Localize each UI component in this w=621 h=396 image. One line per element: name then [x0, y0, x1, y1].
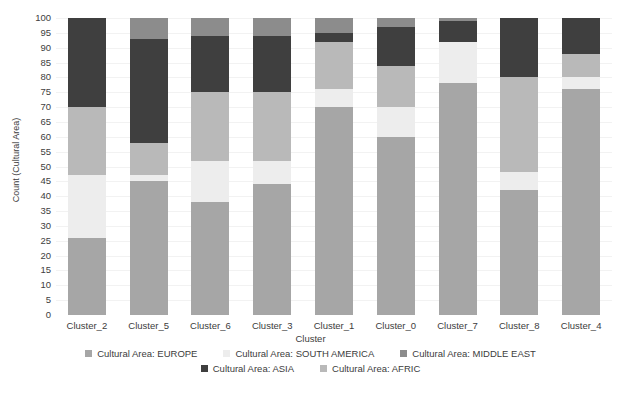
bar-segment[interactable] — [377, 27, 415, 66]
plot-area — [56, 18, 612, 315]
stacked-bar[interactable] — [439, 18, 477, 315]
y-axis-tick-label: 100 — [11, 13, 51, 23]
stacked-bar[interactable] — [500, 18, 538, 315]
y-axis-title-text: Count (Cultural Area) — [11, 118, 21, 203]
bar-segment[interactable] — [315, 89, 353, 107]
y-axis-tick-label: 5 — [11, 295, 51, 305]
stacked-bar-chart-figure: Count (Cultural Area) 051015202530354045… — [0, 0, 621, 396]
x-axis-tick-label: Cluster_4 — [526, 320, 621, 331]
y-axis-tick-label: 20 — [11, 251, 51, 261]
y-axis-tick-label: 50 — [11, 162, 51, 172]
bar-segment[interactable] — [130, 181, 168, 315]
bar-segment[interactable] — [68, 18, 106, 107]
bar-segment[interactable] — [562, 77, 600, 89]
legend-row: Cultural Area: EUROPECultural Area: SOUT… — [85, 348, 536, 359]
y-axis-tick-label: 15 — [11, 265, 51, 275]
bar-segment[interactable] — [439, 42, 477, 84]
bar-group-cluster_4[interactable] — [550, 18, 612, 315]
bar-segment[interactable] — [253, 184, 291, 315]
bar-segment[interactable] — [500, 190, 538, 315]
x-axis-title-text: Cluster — [295, 333, 325, 344]
legend-swatch-icon — [201, 365, 208, 372]
bar-segment[interactable] — [500, 172, 538, 190]
bar-group-cluster_8[interactable] — [488, 18, 550, 315]
legend-swatch-icon — [223, 350, 230, 357]
bar-segment[interactable] — [315, 107, 353, 315]
bar-group-cluster_7[interactable] — [427, 18, 489, 315]
bar-group-cluster_5[interactable] — [118, 18, 180, 315]
bar-segment[interactable] — [315, 18, 353, 33]
stacked-bar[interactable] — [191, 18, 229, 315]
bar-segment[interactable] — [562, 54, 600, 78]
legend-item[interactable]: Cultural Area: SOUTH AMERICA — [223, 348, 374, 359]
bar-segment[interactable] — [377, 107, 415, 137]
bars-container — [56, 18, 612, 315]
y-axis-tick-label: 40 — [11, 191, 51, 201]
y-axis-tick-label: 80 — [11, 72, 51, 82]
legend-label: Cultural Area: ASIA — [213, 363, 294, 374]
legend-item[interactable]: Cultural Area: MIDDLE EAST — [400, 348, 536, 359]
legend-swatch-icon — [400, 350, 407, 357]
bar-segment[interactable] — [68, 238, 106, 315]
bar-group-cluster_0[interactable] — [365, 18, 427, 315]
y-axis-tick-label: 60 — [11, 132, 51, 142]
y-axis-tick-label: 55 — [11, 147, 51, 157]
y-axis-tick-label: 10 — [11, 280, 51, 290]
bar-segment[interactable] — [500, 18, 538, 77]
bar-segment[interactable] — [500, 77, 538, 172]
legend-label: Cultural Area: MIDDLE EAST — [412, 348, 536, 359]
y-axis-tick-label: 95 — [11, 28, 51, 38]
bar-segment[interactable] — [562, 18, 600, 54]
stacked-bar[interactable] — [130, 18, 168, 315]
bar-segment[interactable] — [253, 161, 291, 185]
bar-segment[interactable] — [253, 18, 291, 36]
x-axis-title: Cluster — [0, 333, 621, 344]
bar-segment[interactable] — [68, 107, 106, 175]
bar-group-cluster_3[interactable] — [241, 18, 303, 315]
y-axis-tick-label: 65 — [11, 117, 51, 127]
bar-segment[interactable] — [130, 18, 168, 39]
legend-label: Cultural Area: AFRIC — [332, 363, 420, 374]
bar-segment[interactable] — [191, 161, 229, 203]
bar-segment[interactable] — [439, 21, 477, 42]
y-axis-tick-label: 90 — [11, 43, 51, 53]
bar-segment[interactable] — [191, 18, 229, 36]
stacked-bar[interactable] — [562, 18, 600, 315]
bar-segment[interactable] — [315, 42, 353, 90]
stacked-bar[interactable] — [315, 18, 353, 315]
legend-item[interactable]: Cultural Area: EUROPE — [85, 348, 197, 359]
y-axis-tick-label: 70 — [11, 102, 51, 112]
y-axis-tick-label: 25 — [11, 236, 51, 246]
legend-item[interactable]: Cultural Area: AFRIC — [320, 363, 420, 374]
y-axis-tick-label: 30 — [11, 221, 51, 231]
y-axis-tick-label: 85 — [11, 58, 51, 68]
legend-swatch-icon — [320, 365, 327, 372]
y-axis-tick-label: 45 — [11, 176, 51, 186]
bar-segment[interactable] — [130, 39, 168, 143]
legend-item[interactable]: Cultural Area: ASIA — [201, 363, 294, 374]
bar-group-cluster_1[interactable] — [303, 18, 365, 315]
bar-group-cluster_2[interactable] — [56, 18, 118, 315]
bar-segment[interactable] — [130, 143, 168, 176]
legend-label: Cultural Area: SOUTH AMERICA — [235, 348, 374, 359]
stacked-bar[interactable] — [377, 18, 415, 315]
bar-segment[interactable] — [253, 92, 291, 160]
bar-segment[interactable] — [253, 36, 291, 92]
bar-segment[interactable] — [68, 175, 106, 237]
bar-segment[interactable] — [191, 92, 229, 160]
bar-group-cluster_6[interactable] — [180, 18, 242, 315]
stacked-bar[interactable] — [68, 18, 106, 315]
bar-segment[interactable] — [315, 33, 353, 42]
stacked-bar[interactable] — [253, 18, 291, 315]
bar-segment[interactable] — [191, 202, 229, 315]
bar-segment[interactable] — [562, 89, 600, 315]
bar-segment[interactable] — [191, 36, 229, 92]
legend-row: Cultural Area: ASIACultural Area: AFRIC — [201, 363, 421, 374]
bar-segment[interactable] — [439, 83, 477, 315]
bar-segment[interactable] — [377, 66, 415, 108]
legend-label: Cultural Area: EUROPE — [97, 348, 197, 359]
bar-segment[interactable] — [377, 18, 415, 27]
y-axis-tick-label: 0 — [11, 310, 51, 320]
bar-segment[interactable] — [377, 137, 415, 315]
legend: Cultural Area: EUROPECultural Area: SOUT… — [0, 348, 621, 374]
